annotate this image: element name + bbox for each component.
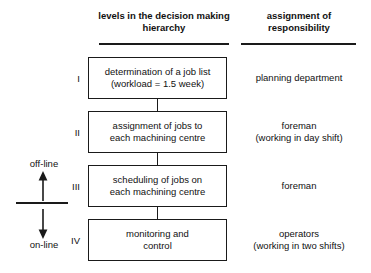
column-header-responsibility: assignment of responsibility xyxy=(240,10,358,33)
column-header-levels: levels in the decision making hierarchy xyxy=(98,10,230,33)
connector-line xyxy=(157,153,158,165)
level-responsibility-label: foreman (working in day shift) xyxy=(238,120,360,144)
column-header-responsibility-rule xyxy=(241,43,356,45)
connector-line xyxy=(157,99,158,111)
decision-hierarchy-diagram: levels in the decision making hierarchy … xyxy=(0,0,371,273)
level-box-label: scheduling of jobs on each machining cen… xyxy=(106,174,210,198)
level-row: III scheduling of jobs on each machining… xyxy=(0,165,371,207)
connector-line xyxy=(157,207,158,219)
level-box-label: determination of a job list (workload = … xyxy=(101,66,215,90)
level-box: determination of a job list (workload = … xyxy=(88,57,227,99)
level-row: I determination of a job list (workload … xyxy=(0,57,371,99)
level-row: II assignment of jobs to each machining … xyxy=(0,111,371,153)
level-responsibility-label: operators (working in two shifts) xyxy=(238,228,360,252)
level-responsibility-label: planning department xyxy=(238,72,360,84)
level-numeral: II xyxy=(58,127,80,138)
level-box-label: assignment of jobs to each machining cen… xyxy=(106,120,210,144)
level-responsibility-label: foreman xyxy=(238,180,360,192)
level-row: IV monitoring and control operators (wor… xyxy=(0,219,371,261)
level-box-label: monitoring and control xyxy=(122,228,193,252)
level-numeral: III xyxy=(58,181,80,192)
level-box: scheduling of jobs on each machining cen… xyxy=(88,165,227,207)
level-numeral: I xyxy=(58,73,80,84)
level-box: monitoring and control xyxy=(88,219,227,261)
level-box: assignment of jobs to each machining cen… xyxy=(88,111,227,153)
column-header-levels-rule xyxy=(99,43,229,45)
level-numeral: IV xyxy=(58,235,80,246)
